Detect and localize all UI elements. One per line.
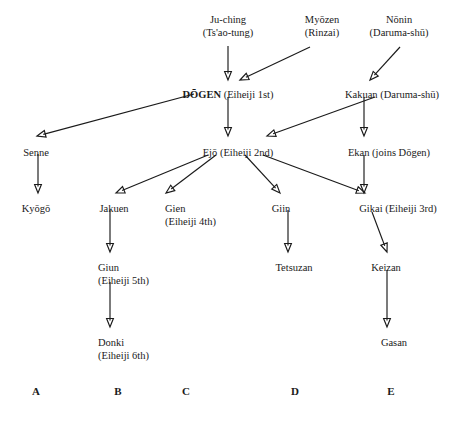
- edge-dogen-to-senne: [43, 94, 194, 134]
- column-label-d: D: [291, 385, 299, 397]
- edge-gikai-to-keizan: [372, 212, 385, 246]
- node-detail-giun: (Eiheiji 5th): [98, 275, 149, 288]
- column-label-c: C: [182, 385, 190, 397]
- node-ekan: Ekan (joins Dōgen): [348, 147, 430, 160]
- node-detail-myozen: (Rinzai): [305, 27, 339, 40]
- node-name-kakuan: Kakuan: [345, 89, 378, 100]
- node-detail-gikai: (Eiheiji 3rd): [383, 203, 437, 214]
- node-detail-kakuan: (Daruma-shū): [378, 89, 440, 100]
- node-name-ekan: Ekan: [348, 147, 370, 158]
- edge-myozen-to-dogen: [246, 47, 310, 77]
- node-dogen: DŌGEN (Eiheiji 1st): [182, 89, 273, 102]
- node-name-gikai: Gikai: [359, 203, 382, 214]
- arrowhead-dogen-to-ejo: [225, 128, 232, 137]
- node-detail-gien: (Eiheiji 4th): [165, 216, 216, 229]
- edge-kakuan-to-ejo: [273, 97, 375, 134]
- edge-ejo-to-gikai: [263, 155, 359, 191]
- node-name-giin: Giin: [272, 203, 291, 214]
- column-label-e: E: [387, 385, 394, 397]
- node-name-gien: Gien: [165, 203, 185, 214]
- edge-ejo-to-gien: [171, 155, 216, 189]
- node-detail-ekan: (joins Dōgen): [369, 147, 430, 158]
- node-name-gasan: Gasan: [381, 337, 407, 348]
- arrowhead-ekan-to-gikai: [361, 185, 368, 194]
- node-name-kyogo: Kyōgō: [22, 203, 51, 214]
- arrowhead-keizan-to-gasan: [384, 319, 391, 328]
- edge-nonin-to-kakuan: [374, 47, 400, 75]
- node-name-nonin: Nōnin: [386, 14, 412, 25]
- node-senne: Senne: [23, 147, 49, 160]
- node-keizan: Keizan: [371, 262, 401, 275]
- node-name-myozen: Myōzen: [305, 14, 339, 25]
- node-detail-donki: (Eiheiji 6th): [98, 350, 149, 363]
- lineage-diagram: Ju-ching(Ts'ao-tung)Myōzen(Rinzai)Nōnin(…: [0, 0, 464, 424]
- node-gasan: Gasan: [381, 337, 407, 350]
- arrowhead-jakuen-to-giun: [107, 244, 114, 253]
- node-tetsuzan: Tetsuzan: [275, 262, 312, 275]
- arrowhead-dogen-to-senne: [37, 131, 46, 138]
- node-name-dogen: DŌGEN: [182, 89, 221, 100]
- arrowhead-kakuan-to-ejo: [267, 130, 276, 136]
- node-nonin: Nōnin(Daruma-shū): [370, 14, 429, 39]
- node-gien: Gien(Eiheiji 4th): [165, 203, 216, 228]
- arrowhead-ejo-to-jakuen: [116, 187, 125, 193]
- node-name-jakuen: Jakuen: [99, 203, 128, 214]
- arrowhead-ejo-to-gikai: [356, 187, 365, 193]
- node-name-ejo: Ejō: [203, 147, 218, 158]
- edge-ejo-to-giin: [245, 155, 276, 188]
- node-donki: Donki(Eiheiji 6th): [98, 337, 149, 362]
- node-name-tetsuzan: Tetsuzan: [275, 262, 312, 273]
- column-label-b: B: [114, 385, 121, 397]
- node-giin: Giin: [272, 203, 291, 216]
- arrowhead-myozen-to-dogen: [240, 73, 249, 80]
- node-jakuen: Jakuen: [99, 203, 128, 216]
- node-name-giun: Giun: [98, 262, 119, 273]
- node-giun: Giun(Eiheiji 5th): [98, 262, 149, 287]
- arrowhead-gikai-to-keizan: [381, 243, 387, 252]
- arrowhead-kakuan-to-ekan: [361, 128, 368, 137]
- arrowhead-juching-to-dogen: [225, 72, 232, 81]
- arrowhead-ejo-to-gien: [166, 185, 175, 193]
- node-kakuan: Kakuan (Daruma-shū): [345, 89, 439, 102]
- node-detail-ejo: (Eiheiji 2nd): [217, 147, 273, 158]
- node-detail-dogen: (Eiheiji 1st): [221, 89, 274, 100]
- arrowhead-giun-to-donki: [107, 319, 114, 328]
- arrowhead-nonin-to-kakuan: [370, 71, 378, 80]
- node-name-senne: Senne: [23, 147, 49, 158]
- arrowhead-giin-to-tetsuzan: [285, 244, 292, 253]
- edge-ejo-to-jakuen: [122, 155, 208, 191]
- node-gikai: Gikai (Eiheiji 3rd): [359, 203, 437, 216]
- node-kyogo: Kyōgō: [22, 203, 51, 216]
- node-name-donki: Donki: [98, 337, 124, 348]
- arrowhead-senne-to-kyogo: [35, 185, 42, 194]
- node-name-keizan: Keizan: [371, 262, 401, 273]
- node-name-juching: Ju-ching: [210, 14, 246, 25]
- node-juching: Ju-ching(Ts'ao-tung): [203, 14, 254, 39]
- node-detail-juching: (Ts'ao-tung): [203, 27, 254, 40]
- node-ejo: Ejō (Eiheiji 2nd): [203, 147, 274, 160]
- node-myozen: Myōzen(Rinzai): [305, 14, 339, 39]
- node-detail-nonin: (Daruma-shū): [370, 27, 429, 40]
- arrowhead-ejo-to-giin: [272, 184, 280, 193]
- column-label-a: A: [32, 385, 40, 397]
